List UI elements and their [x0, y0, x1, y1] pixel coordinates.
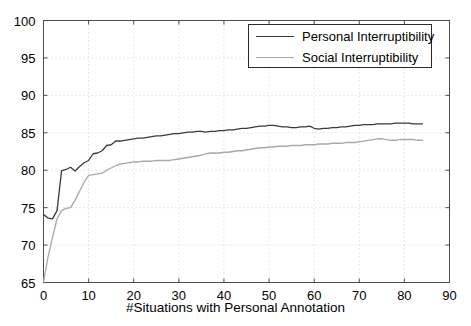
y-tick-label: 95	[0, 51, 36, 64]
legend-swatch-personal	[256, 36, 294, 37]
series-line-personal	[44, 123, 423, 219]
x-axis-title: #Situations with Personal Annotation	[0, 300, 471, 315]
legend: Personal Interruptibility Social Interru…	[248, 24, 432, 68]
legend-swatch-social	[256, 57, 294, 58]
legend-label-social: Social Interruptibility	[302, 50, 418, 65]
y-tick-label: 80	[0, 164, 36, 177]
y-tick-label: 70	[0, 239, 36, 252]
data-series-group	[44, 123, 423, 282]
y-tick-label: 100	[0, 14, 36, 27]
y-tick-label: 65	[0, 276, 36, 289]
y-tick-label: 85	[0, 126, 36, 139]
legend-item-personal-interruptibility: Personal Interruptibility	[249, 25, 433, 47]
legend-item-social-interruptibility: Social Interruptibility	[249, 46, 433, 68]
y-tick-label: 90	[0, 89, 36, 102]
legend-label-personal: Personal Interruptibility	[302, 29, 434, 44]
y-tick-label: 75	[0, 201, 36, 214]
chart-figure: 65707580859095100 0102030405060708090 #S…	[0, 0, 471, 326]
series-line-social	[44, 139, 423, 282]
